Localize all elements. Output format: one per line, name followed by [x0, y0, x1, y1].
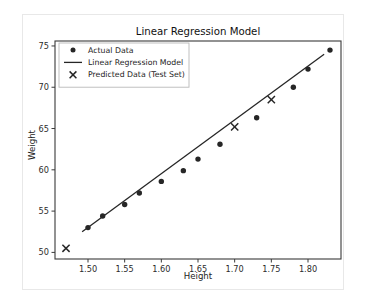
actual-data-point	[100, 213, 105, 218]
chart-legend: Actual DataLinear Regression ModelPredic…	[59, 43, 189, 87]
y-tick-label: 65	[39, 124, 49, 134]
x-tick-label: 1.50	[79, 264, 97, 274]
actual-data-point	[217, 142, 222, 147]
legend-entry-label: Linear Regression Model	[88, 58, 183, 67]
x-axis-label: Height	[184, 271, 213, 281]
chart-title-group: Linear Regression Model	[136, 26, 260, 37]
actual-data-point	[291, 85, 296, 90]
chart-title: Linear Regression Model	[136, 26, 260, 37]
actual-data-point	[195, 156, 200, 161]
x-tick-label: 1.55	[116, 264, 134, 274]
x-tick-label: 1.80	[299, 264, 317, 274]
y-tick-label: 70	[39, 82, 49, 92]
actual-data-point	[305, 66, 310, 71]
y-axis-label: Weight	[27, 129, 37, 160]
y-axis-ticks: 505560657075	[39, 41, 55, 257]
actual-data-point	[122, 202, 127, 207]
x-tick-label: 1.75	[262, 264, 280, 274]
y-tick-label: 55	[39, 206, 49, 216]
x-tick-label: 1.60	[152, 264, 170, 274]
predicted-data-point	[268, 96, 275, 103]
actual-data-point	[159, 179, 164, 184]
actual-data-point	[137, 190, 142, 195]
predicted-data-points	[62, 96, 275, 252]
legend-marker-circle	[71, 48, 76, 53]
y-tick-label: 50	[39, 247, 49, 257]
predicted-data-point	[231, 123, 238, 130]
actual-data-point	[254, 115, 259, 120]
actual-data-point	[181, 168, 186, 173]
predicted-data-point	[62, 245, 69, 252]
figure-card: Linear Regression Model 1.501.551.601.65…	[22, 14, 344, 290]
x-tick-label: 1.70	[226, 264, 244, 274]
actual-data-point	[327, 47, 332, 52]
actual-data-point	[85, 225, 90, 230]
legend-entry-label: Actual Data	[88, 46, 134, 55]
linear-regression-chart: Linear Regression Model 1.501.551.601.65…	[23, 15, 345, 291]
y-tick-label: 60	[39, 165, 49, 175]
y-tick-label: 75	[39, 41, 49, 51]
legend-entry-label: Predicted Data (Test Set)	[88, 70, 185, 79]
